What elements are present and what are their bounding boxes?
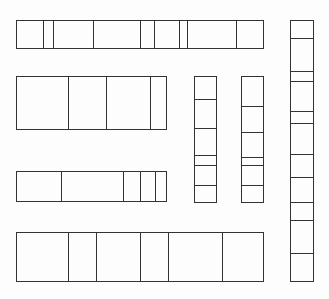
- segment-divider: [195, 99, 216, 100]
- horizontal-strip-2: [16, 76, 167, 130]
- vertical-strip-3: [290, 20, 314, 282]
- segment-divider: [291, 154, 313, 155]
- segment-divider: [291, 123, 313, 124]
- segment-divider: [168, 233, 169, 281]
- segment-divider: [291, 220, 313, 221]
- segment-divider: [43, 21, 44, 48]
- segment-divider: [140, 172, 141, 201]
- segment-divider: [242, 185, 263, 186]
- segment-divider: [154, 21, 155, 48]
- segment-divider: [242, 165, 263, 166]
- diagram-canvas: [0, 0, 329, 299]
- segment-divider: [242, 106, 263, 107]
- segment-divider: [242, 132, 263, 133]
- segment-divider: [68, 233, 69, 281]
- segment-divider: [68, 77, 69, 129]
- segment-divider: [291, 38, 313, 39]
- segment-divider: [179, 21, 180, 48]
- segment-divider: [291, 202, 313, 203]
- segment-divider: [291, 177, 313, 178]
- segment-divider: [242, 157, 263, 158]
- segment-divider: [140, 21, 141, 48]
- segment-divider: [123, 172, 124, 201]
- segment-divider: [53, 21, 54, 48]
- segment-divider: [93, 21, 94, 48]
- segment-divider: [291, 253, 313, 254]
- segment-divider: [61, 172, 62, 201]
- segment-divider: [155, 172, 156, 201]
- segment-divider: [187, 21, 188, 48]
- segment-divider: [140, 233, 141, 281]
- segment-divider: [195, 128, 216, 129]
- segment-divider: [106, 77, 107, 129]
- segment-divider: [291, 111, 313, 112]
- vertical-strip-1: [194, 76, 217, 203]
- segment-divider: [150, 77, 151, 129]
- vertical-strip-2: [241, 76, 264, 203]
- segment-divider: [195, 185, 216, 186]
- horizontal-strip-1: [16, 20, 264, 49]
- segment-divider: [291, 71, 313, 72]
- segment-divider: [195, 165, 216, 166]
- segment-divider: [96, 233, 97, 281]
- segment-divider: [195, 155, 216, 156]
- horizontal-strip-3: [16, 171, 167, 202]
- segment-divider: [236, 21, 237, 48]
- segment-divider: [291, 81, 313, 82]
- horizontal-strip-4: [16, 232, 264, 282]
- segment-divider: [222, 233, 223, 281]
